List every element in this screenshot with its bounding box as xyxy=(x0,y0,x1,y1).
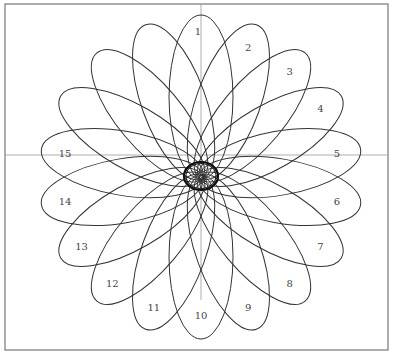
petal-label: 1 xyxy=(195,26,201,37)
petal-label: 9 xyxy=(245,302,251,313)
petal-label: 8 xyxy=(287,278,293,289)
petal-label: 4 xyxy=(317,103,323,114)
petal-label: 5 xyxy=(334,148,340,159)
petal-label: 15 xyxy=(59,148,72,159)
petal-ellipse xyxy=(183,148,357,285)
petal-ellipse xyxy=(193,145,366,237)
petal-ellipse xyxy=(183,68,357,205)
petal-label: 10 xyxy=(195,310,208,321)
petal-label: 7 xyxy=(317,241,323,252)
center-label: 0 xyxy=(197,174,203,185)
petal-ellipse xyxy=(193,117,366,209)
petal-label: 6 xyxy=(334,196,340,207)
petal-label: 11 xyxy=(147,302,160,313)
petal-label: 13 xyxy=(75,241,88,252)
petal-ellipse xyxy=(45,68,219,205)
rose-diagram: 0 123456789101112131415 xyxy=(0,0,393,357)
petal-ellipse xyxy=(45,148,219,285)
petal-label: 3 xyxy=(287,66,293,77)
petal-label: 14 xyxy=(59,196,72,207)
diagram-frame: 0 123456789101112131415 xyxy=(0,0,393,357)
petal-label: 12 xyxy=(106,278,119,289)
petal-label: 2 xyxy=(245,42,251,53)
